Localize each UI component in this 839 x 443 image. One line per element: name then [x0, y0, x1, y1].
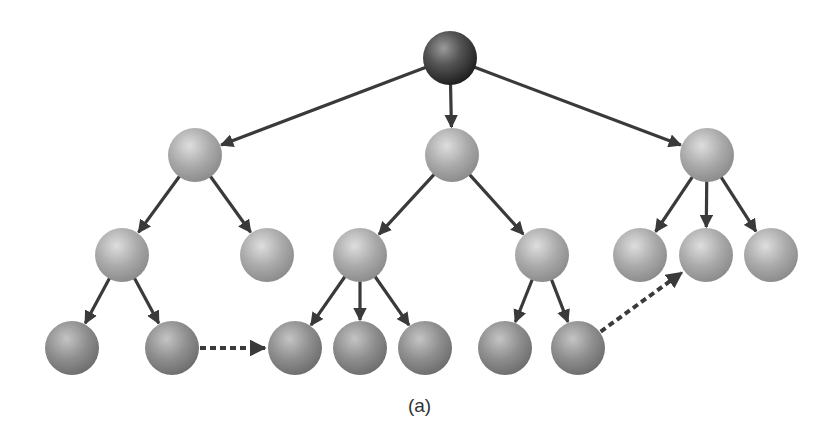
tree-diagram: (a) — [0, 0, 839, 443]
tree-node — [680, 128, 734, 182]
tree-edge-arrow — [210, 175, 251, 232]
figure-caption: (a) — [0, 395, 839, 417]
tree-edge-arrow — [469, 174, 524, 235]
tree-edge-arrow — [473, 67, 680, 145]
tree-node — [333, 228, 387, 282]
tree-node — [744, 228, 798, 282]
leaf-node — [45, 321, 99, 375]
root-node — [423, 31, 477, 85]
tree-node — [240, 228, 294, 282]
tree-edge-arrow — [451, 83, 452, 127]
leaf-node — [551, 321, 605, 375]
leaf-node — [398, 321, 452, 375]
leaf-node — [333, 321, 387, 375]
tree-node — [168, 128, 222, 182]
edge-layer — [85, 67, 756, 325]
tree-edge-arrow — [311, 275, 346, 325]
tree-edge-arrow — [515, 278, 532, 322]
tree-edge-arrow — [551, 278, 568, 322]
leaf-node — [478, 321, 532, 375]
tree-edge-arrow — [139, 175, 181, 232]
tree-edge-arrow — [720, 176, 755, 231]
tree-node — [425, 128, 479, 182]
tree-edge-arrow — [221, 67, 426, 145]
tree-edge-arrow — [85, 277, 110, 323]
tree-node — [613, 228, 667, 282]
tree-node — [95, 228, 149, 282]
leaf-node — [145, 321, 199, 375]
tree-edge-arrow — [656, 176, 693, 232]
tree-edge-arrow — [379, 173, 435, 234]
tree-node — [679, 228, 733, 282]
leaf-node — [268, 321, 322, 375]
tree-node — [515, 228, 569, 282]
tree-graph — [0, 0, 839, 443]
tree-edge-arrow — [134, 277, 159, 323]
tree-edge-arrow — [374, 275, 409, 325]
